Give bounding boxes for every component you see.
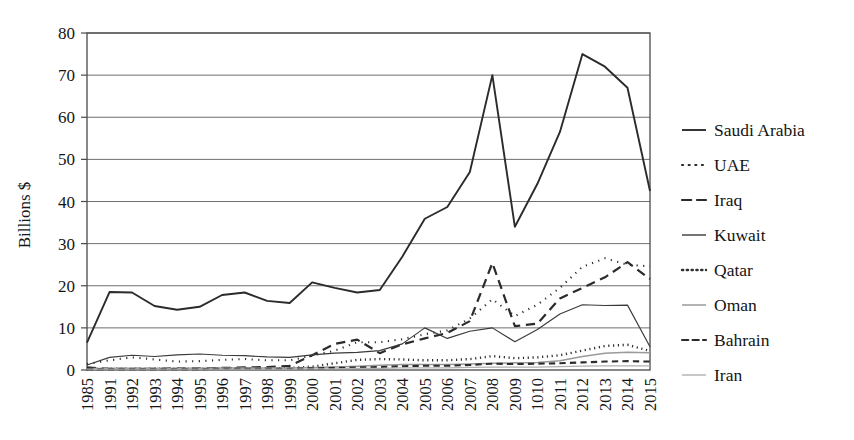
x-tick-label-2005: 2005 (416, 378, 435, 411)
chart-figure: 01020304050607080 1985199119921993199419… (0, 0, 854, 440)
x-tick-label-2011: 2011 (551, 378, 570, 410)
y-tick-label-30: 30 (58, 235, 75, 254)
legend-label-qatar: Qatar (714, 260, 753, 280)
x-tick-label-1994: 1994 (168, 378, 187, 411)
x-tick-label-1993: 1993 (146, 378, 165, 411)
y-tick-label-10: 10 (58, 319, 75, 338)
x-tick-label-2001: 2001 (326, 378, 345, 411)
x-tick-label-2003: 2003 (371, 378, 390, 411)
x-tick-label-2012: 2012 (573, 378, 592, 411)
y-tick-label-60: 60 (58, 108, 75, 127)
x-tick-label-1010: 1010 (528, 378, 547, 411)
legend-label-bahrain: Bahrain (714, 330, 770, 350)
x-tick-label-1996: 1996 (213, 378, 232, 411)
x-tick-label-1999: 1999 (281, 378, 300, 411)
x-tick-label-2002: 2002 (348, 378, 367, 411)
x-tick-label-2009: 2009 (506, 378, 525, 411)
x-tick-label-1991: 1991 (101, 378, 120, 411)
legend-label-uae: UAE (714, 155, 750, 175)
y-tick-label-40: 40 (58, 193, 75, 212)
y-tick-label-20: 20 (58, 277, 75, 296)
x-tick-label-1992: 1992 (123, 378, 142, 411)
x-tick-label-2015: 2015 (641, 378, 660, 411)
y-tick-label-80: 80 (58, 24, 75, 43)
legend-label-oman: Oman (714, 295, 757, 315)
x-tick-label-1985: 1985 (78, 378, 97, 411)
x-tick-label-2006: 2006 (438, 378, 457, 411)
x-tick-label-2004: 2004 (393, 378, 412, 411)
y-tick-label-0: 0 (67, 361, 76, 380)
x-tick-label-2000: 2000 (303, 378, 322, 411)
x-tick-label-1995: 1995 (191, 378, 210, 411)
line-chart: 01020304050607080 1985199119921993199419… (0, 0, 854, 440)
x-tick-label-2013: 2013 (596, 378, 615, 411)
y-tick-label-50: 50 (58, 150, 75, 169)
legend-label-saudi-arabia: Saudi Arabia (714, 120, 805, 140)
legend-label-kuwait: Kuwait (714, 225, 766, 245)
x-tick-label-1997: 1997 (236, 378, 255, 411)
x-tick-label-2008: 2008 (483, 378, 502, 411)
x-tick-label-1998: 1998 (258, 378, 277, 411)
x-tick-label-2014: 2014 (618, 378, 637, 411)
legend-label-iraq: Iraq (714, 190, 742, 210)
legend-label-iran: Iran (714, 365, 742, 385)
x-tick-label-2007: 2007 (461, 378, 480, 411)
y-axis-title: Billions $ (15, 182, 34, 249)
y-tick-label-70: 70 (58, 66, 75, 85)
